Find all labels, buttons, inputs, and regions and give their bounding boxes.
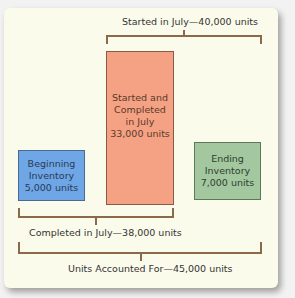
box-text: Beginning <box>28 158 76 170</box>
box-text: in July <box>126 116 155 128</box>
box-text: Inventory <box>29 170 74 182</box>
beginning-inventory-box: Beginning Inventory 5,000 units <box>18 150 85 201</box>
top-bracket <box>107 30 261 44</box>
bottom-bracket <box>19 242 261 261</box>
box-text: Ending <box>211 153 244 165</box>
units-accounted-for-label: Units Accounted For—45,000 units <box>68 263 233 274</box>
diagram-card: Started in July—40,000 units Started and… <box>4 8 278 288</box>
box-text: 33,000 units <box>110 128 170 140</box>
started-and-completed-box: Started and Completed in July 33,000 uni… <box>106 51 174 205</box>
box-text: 7,000 units <box>201 177 255 189</box>
completed-in-july-label: Completed in July—38,000 units <box>29 227 182 238</box>
box-text: Inventory <box>205 165 250 177</box>
ending-inventory-box: Ending Inventory 7,000 units <box>194 142 261 200</box>
middle-bracket <box>19 208 173 225</box>
box-text: Completed <box>114 104 166 116</box>
box-text: 5,000 units <box>25 182 79 194</box>
started-in-july-label: Started in July—40,000 units <box>122 16 258 27</box>
box-text: Started and <box>112 92 168 104</box>
